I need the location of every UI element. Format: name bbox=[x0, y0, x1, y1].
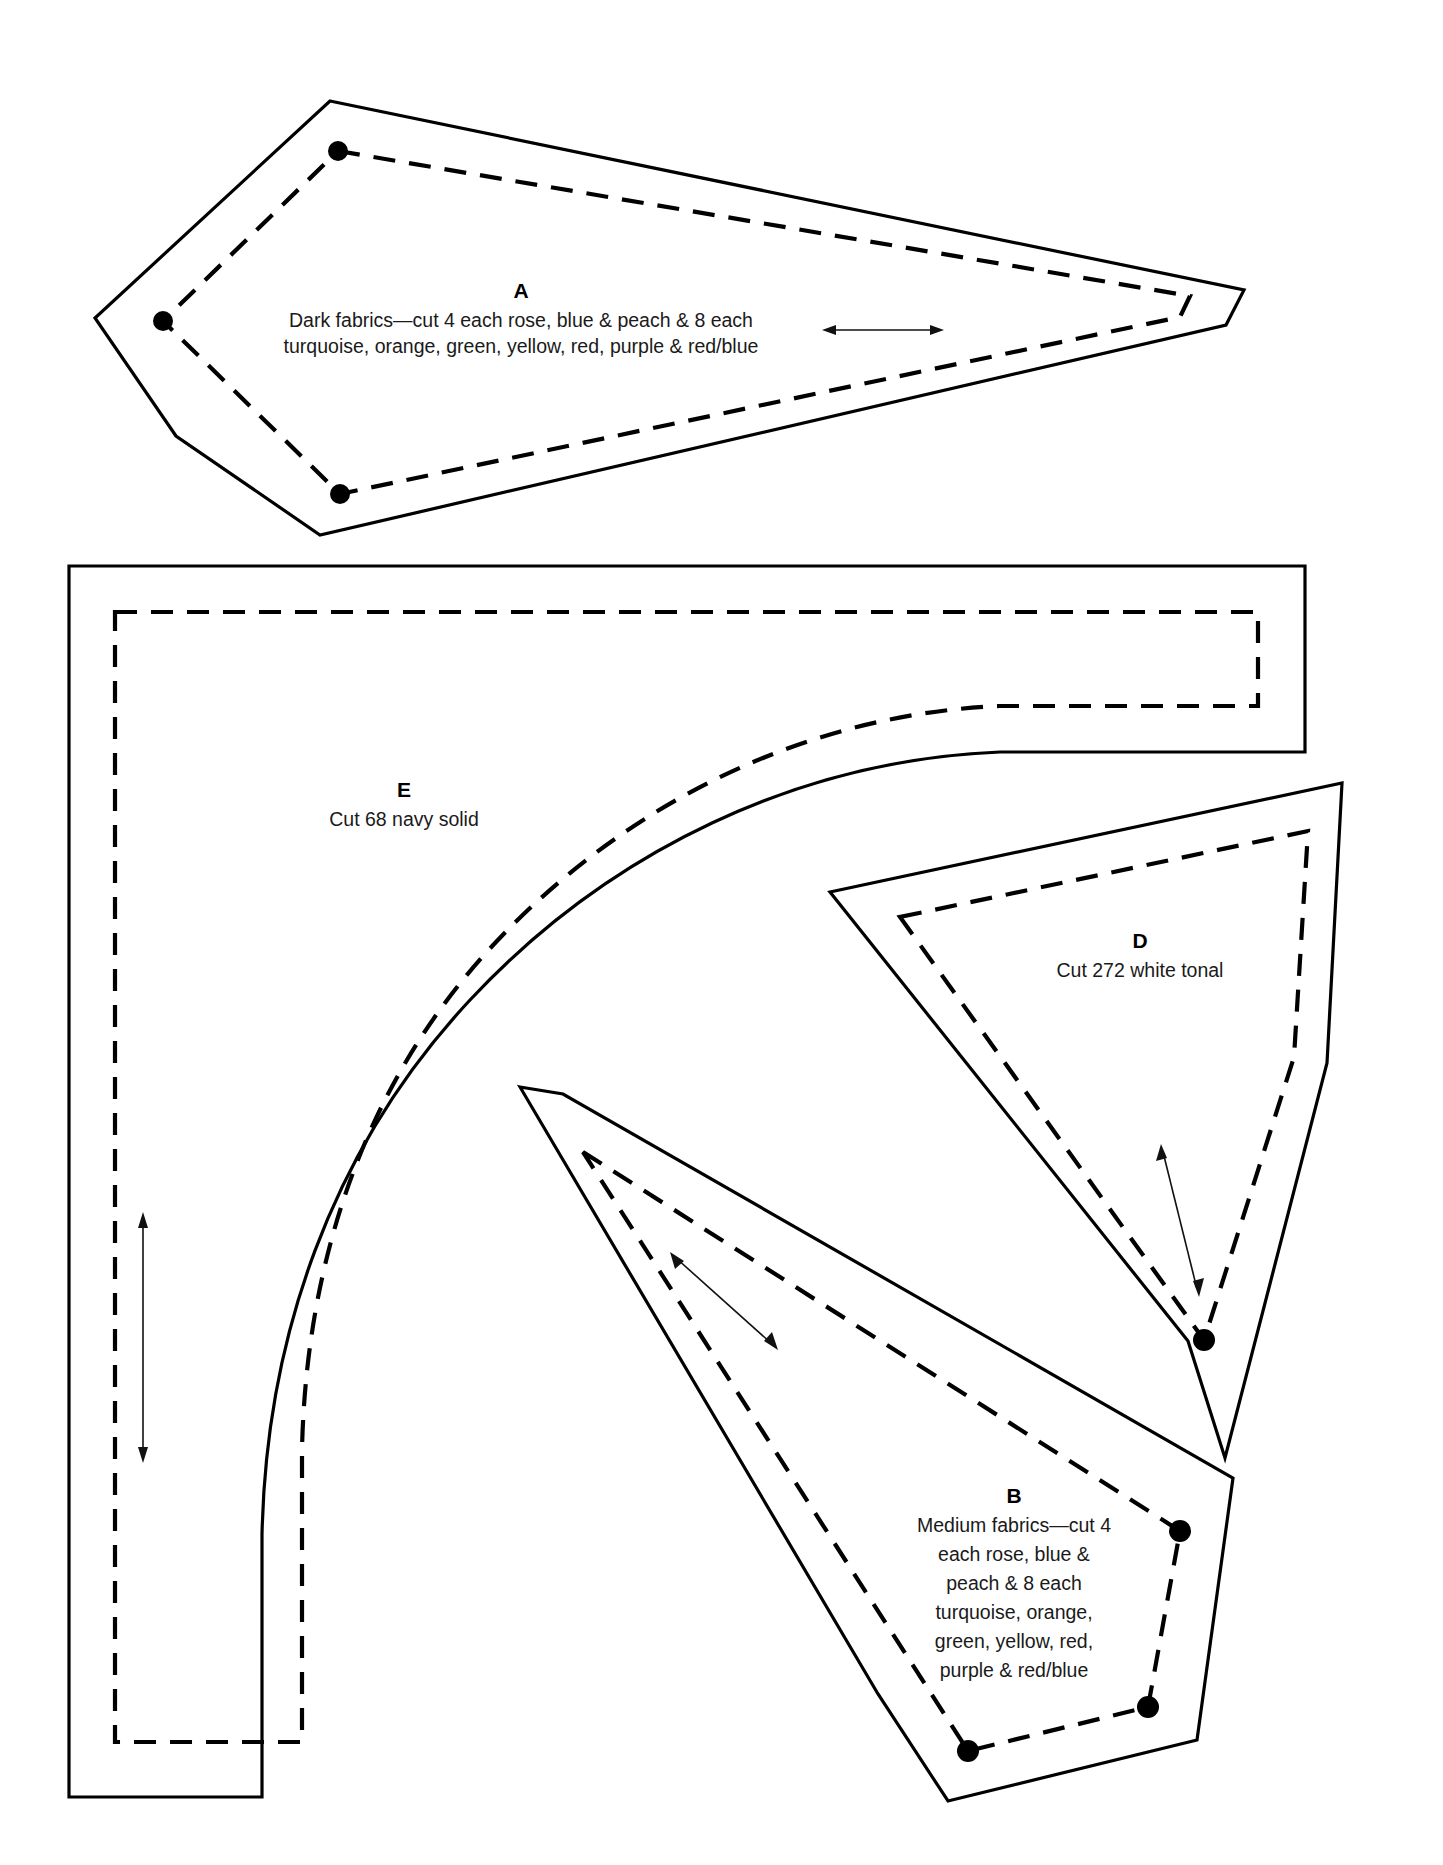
piece-b-line-1: Medium fabrics—cut 4 bbox=[917, 1514, 1111, 1536]
piece-b-line-4: turquoise, orange, bbox=[935, 1601, 1092, 1623]
piece-b-dot-bottom bbox=[957, 1740, 979, 1762]
piece-a-line-2: turquoise, orange, green, yellow, red, p… bbox=[284, 335, 759, 357]
piece-a-line-1: Dark fabrics—cut 4 each rose, blue & pea… bbox=[289, 309, 753, 331]
piece-e-line-1: Cut 68 navy solid bbox=[329, 808, 479, 830]
piece-a-letter: A bbox=[513, 279, 528, 302]
piece-b-dot-upper-right bbox=[1169, 1520, 1191, 1542]
piece-a-dot-top bbox=[328, 141, 348, 161]
pattern-sheet-svg: A Dark fabrics—cut 4 each rose, blue & p… bbox=[0, 0, 1443, 1865]
piece-a-dot-left bbox=[153, 311, 173, 331]
piece-e-letter: E bbox=[397, 778, 411, 801]
piece-b-line-3: peach & 8 each bbox=[946, 1572, 1082, 1594]
piece-d-dot-apex bbox=[1193, 1329, 1215, 1351]
piece-b-line-6: purple & red/blue bbox=[940, 1659, 1089, 1681]
piece-b-line-5: green, yellow, red, bbox=[935, 1630, 1093, 1652]
page-background bbox=[0, 0, 1443, 1865]
piece-b-line-2: each rose, blue & bbox=[938, 1543, 1090, 1565]
piece-d-line-1: Cut 272 white tonal bbox=[1057, 959, 1224, 981]
piece-d-letter: D bbox=[1132, 929, 1147, 952]
piece-b-letter: B bbox=[1006, 1484, 1021, 1507]
pattern-sheet-canvas: A Dark fabrics—cut 4 each rose, blue & p… bbox=[0, 0, 1443, 1865]
piece-b-dot-lower-right bbox=[1137, 1696, 1159, 1718]
piece-a-dot-bottom bbox=[330, 484, 350, 504]
